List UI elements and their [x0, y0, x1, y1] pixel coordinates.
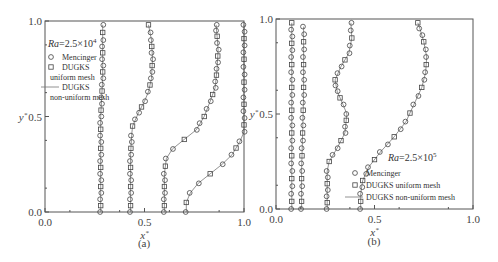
circle-marker — [377, 150, 382, 155]
circle-marker — [101, 22, 106, 27]
circle-marker — [99, 114, 104, 119]
circle-marker — [129, 191, 134, 196]
circle-marker — [343, 131, 348, 136]
subcaption: (a) — [138, 237, 151, 250]
circle-marker — [100, 57, 105, 62]
ra-value: =2.5×10 — [399, 152, 433, 163]
plot-a: 0.00.51.00.00.51.0x*y*(a)Ra=2.5×104Menci… — [18, 15, 252, 250]
circle-marker — [161, 197, 166, 202]
circle-marker — [241, 22, 246, 27]
ra-value: =2.5×10 — [59, 38, 93, 49]
legend-label: Mencinger — [62, 53, 97, 62]
circle-marker — [300, 100, 305, 105]
circle-marker — [348, 28, 353, 33]
y-tick-label: 0.0 — [259, 203, 273, 215]
circle-marker — [290, 93, 295, 98]
superscript: * — [24, 111, 28, 119]
circle-marker — [98, 171, 103, 176]
circle-marker — [300, 115, 305, 120]
circle-marker — [242, 87, 247, 92]
legend-label: DUGKS uniform mesh — [366, 181, 440, 190]
legend-label: non-uniform mesh — [50, 93, 109, 102]
circle-marker — [99, 178, 104, 183]
circle-marker — [301, 70, 306, 75]
circle-marker — [242, 116, 247, 121]
series-line-profile-2 — [302, 27, 304, 209]
circle-marker — [99, 191, 104, 196]
circle-marker — [98, 197, 103, 202]
y-axis-label: y* — [249, 108, 259, 120]
circle-marker — [325, 188, 330, 193]
circle-marker — [242, 43, 247, 48]
y-axis-label: y* — [18, 111, 28, 123]
ra-exponent: 4 — [93, 37, 97, 45]
circle-marker — [289, 146, 294, 151]
circle-marker — [358, 191, 363, 196]
circle-marker — [241, 109, 246, 114]
circle-marker — [98, 120, 103, 125]
circle-marker — [214, 28, 219, 33]
rayleigh-annotation: Ra=2.5×104 — [47, 37, 97, 49]
circle-marker — [398, 127, 403, 132]
circle-marker — [241, 64, 246, 69]
y-tick-label: 1.0 — [259, 13, 273, 25]
circle-marker — [349, 20, 354, 25]
circle-marker — [98, 133, 103, 138]
circle-marker — [196, 181, 201, 186]
circle-marker — [98, 159, 103, 164]
circle-marker — [161, 171, 166, 176]
circle-marker — [101, 38, 106, 43]
circle-marker — [299, 191, 304, 196]
circle-marker — [242, 29, 247, 34]
x-tick-label: 0.5 — [368, 213, 382, 225]
legend-label: DUGKS — [62, 63, 90, 72]
circle-marker — [213, 85, 218, 90]
circle-marker — [324, 169, 329, 174]
circle-marker — [302, 32, 307, 37]
circle-marker — [403, 119, 408, 124]
circle-marker — [241, 50, 246, 55]
circle-marker — [301, 55, 306, 60]
circle-marker — [290, 77, 295, 82]
circle-marker — [216, 47, 221, 52]
circle-marker — [163, 178, 168, 183]
circle-marker — [290, 34, 295, 39]
plot-b: 0.00.51.00.00.51.0x*y*(b)Ra=2.5×105Menci… — [249, 13, 481, 248]
series-line-profile-4 — [186, 25, 244, 212]
circle-marker — [129, 133, 134, 138]
circle-marker — [302, 47, 307, 52]
circle-marker — [229, 152, 234, 157]
legend-label: DUGKS — [62, 83, 90, 92]
circle-marker — [129, 152, 134, 157]
superscript: * — [145, 229, 149, 237]
circle-marker — [214, 22, 219, 27]
legend: MencingerDUGKSuniform meshDUGKSnon-unifo… — [41, 53, 109, 102]
legend-label: uniform mesh — [50, 73, 95, 82]
legend-square-icon — [49, 65, 53, 69]
circle-marker — [99, 82, 104, 87]
circle-marker — [101, 76, 106, 81]
plot-frame — [45, 21, 244, 212]
circle-marker — [289, 70, 294, 75]
circle-marker — [300, 169, 305, 174]
subcaption: (b) — [368, 235, 381, 248]
circle-marker — [289, 161, 294, 166]
circle-marker — [290, 184, 295, 189]
circle-marker — [289, 27, 294, 32]
legend-circle-icon — [353, 171, 358, 176]
circle-marker — [324, 194, 329, 199]
circle-marker — [100, 101, 105, 106]
circle-marker — [150, 70, 155, 75]
circle-marker — [300, 184, 305, 189]
circle-marker — [151, 57, 156, 62]
y-tick-label: 0.5 — [28, 111, 42, 123]
circle-marker — [242, 129, 247, 134]
circle-marker — [302, 93, 307, 98]
series-line-profile-3 — [164, 25, 218, 212]
circle-marker — [386, 142, 391, 147]
superscript: * — [255, 108, 259, 116]
circle-marker — [302, 77, 307, 82]
x-tick-label: 1.0 — [466, 213, 480, 225]
circle-marker — [129, 178, 134, 183]
ra-prefix: Ra — [387, 152, 399, 163]
